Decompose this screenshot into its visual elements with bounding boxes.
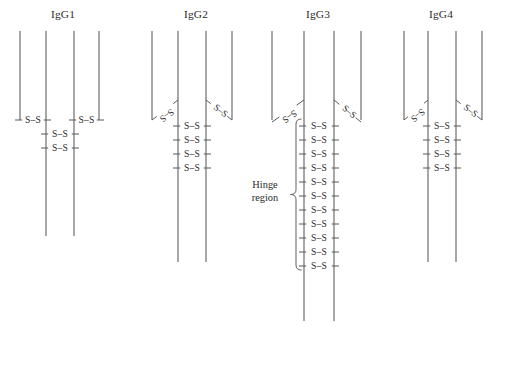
- igg3-hinge-bond-1: S–S: [299, 120, 339, 131]
- igg1-hinge-bond-2: S–S: [41, 142, 79, 153]
- igg3-hinge-label-line1: Hinge: [252, 179, 278, 190]
- igg1-hinge-bond-1-label: S–S: [52, 128, 68, 139]
- igg3-hinge-bond-1-label: S–S: [311, 120, 327, 131]
- igg2-light-heavy-left: S–S: [152, 100, 178, 124]
- igg2-light-heavy-right-segment-b: [227, 116, 232, 120]
- igg3-hinge-bond-7-label: S–S: [311, 204, 327, 215]
- isotype-group-igg1: S–SS–SS–SS–SIgG1: [15, 8, 104, 236]
- igg3-hinge-bond-3-label: S–S: [311, 148, 327, 159]
- igg4-light-heavy-right: S–S: [456, 100, 482, 120]
- igg3-hinge-bond-8: S–S: [299, 218, 339, 229]
- igg3-hinge-bond-11-label: S–S: [311, 260, 327, 271]
- igg2-light-heavy-left-label: S–S: [158, 107, 176, 124]
- igg-diagram-canvas: S–SS–SS–SS–SIgG1S–SS–SS–SS–SS–SS–SIgG2S–…: [0, 0, 505, 369]
- igg3-hinge-bond-4-label: S–S: [311, 162, 327, 173]
- igg3-hinge-bond-2-label: S–S: [311, 134, 327, 145]
- igg2-title: IgG2: [184, 8, 208, 20]
- igg3-light-heavy-left-segment-a: [297, 100, 304, 105]
- igg3-light-heavy-left-segment-b: [272, 117, 279, 122]
- igg3-hinge-bond-4: S–S: [299, 162, 339, 173]
- igg2-light-heavy-right-segment-a: [206, 100, 211, 104]
- igg3-light-heavy-right-segment-b: [356, 118, 361, 122]
- igg3-light-heavy-left: S–S: [272, 100, 304, 125]
- igg3-hinge-bond-10-label: S–S: [311, 246, 327, 257]
- igg1-light-heavy-right-label: S–S: [79, 114, 95, 125]
- igg2-hinge-bond-1: S–S: [173, 120, 211, 131]
- igg4-hinge-bond-3: S–S: [423, 148, 461, 159]
- igg3-hinge-bond-9-label: S–S: [311, 232, 327, 243]
- igg2-hinge-bond-2-label: S–S: [184, 134, 200, 145]
- igg4-light-heavy-left-segment-a: [424, 100, 428, 103]
- igg2-hinge-bond-3-label: S–S: [184, 148, 200, 159]
- isotype-group-igg4: S–SS–SS–SS–SS–SS–SIgG4: [404, 8, 482, 262]
- igg1-hinge-bond-1: S–S: [41, 128, 79, 139]
- igg2-light-heavy-left-segment-a: [173, 100, 178, 104]
- igg2-hinge-bond-4-label: S–S: [184, 162, 200, 173]
- igg2-hinge-bond-3: S–S: [173, 148, 211, 159]
- igg1-hinge-bond-2-label: S–S: [52, 142, 68, 153]
- igg3-hinge-bond-7: S–S: [299, 204, 339, 215]
- igg2-hinge-bond-4: S–S: [173, 162, 211, 173]
- igg-subclass-diagram: S–SS–SS–SS–SIgG1S–SS–SS–SS–SS–SS–SIgG2S–…: [0, 0, 505, 369]
- igg3-hinge-bond-11: S–S: [299, 260, 339, 271]
- igg4-hinge-bond-1-label: S–S: [434, 120, 450, 131]
- igg4-hinge-bond-3-label: S–S: [434, 148, 450, 159]
- igg3-hinge-bond-5-label: S–S: [311, 176, 327, 187]
- igg3-hinge-bond-6: S–S: [299, 190, 339, 201]
- igg2-light-heavy-left-segment-b: [152, 116, 157, 120]
- diagram-content: S–SS–SS–SS–SIgG1S–SS–SS–SS–SS–SS–SIgG2S–…: [15, 8, 482, 321]
- igg1-light-heavy-left-label: S–S: [25, 114, 41, 125]
- isotype-group-igg2: S–SS–SS–SS–SS–SS–SIgG2: [152, 8, 232, 262]
- igg1-title: IgG1: [51, 8, 75, 20]
- igg3-light-heavy-right: S–S: [334, 100, 361, 122]
- igg3-hinge-bond-10: S–S: [299, 246, 339, 257]
- igg3-hinge-bond-2: S–S: [299, 134, 339, 145]
- igg4-light-heavy-left-label: S–S: [409, 107, 427, 124]
- igg3-hinge-bond-5: S–S: [299, 176, 339, 187]
- igg3-hinge-bond-6-label: S–S: [311, 190, 327, 201]
- igg4-light-heavy-left-segment-b: [404, 117, 408, 120]
- igg4-light-heavy-left: S–S: [404, 100, 428, 124]
- igg4-hinge-bond-2: S–S: [423, 134, 461, 145]
- igg3-hinge-bond-9: S–S: [299, 232, 339, 243]
- igg3-hinge-brace: [291, 119, 302, 270]
- igg3-light-heavy-right-segment-a: [334, 100, 339, 104]
- igg4-hinge-bond-4: S–S: [423, 162, 461, 173]
- igg4-light-heavy-right-segment-b: [477, 116, 482, 120]
- igg3-hinge-bond-8-label: S–S: [311, 218, 327, 229]
- igg2-light-heavy-right: S–S: [206, 100, 232, 120]
- igg3-hinge-bond-3: S–S: [299, 148, 339, 159]
- igg4-hinge-bond-1: S–S: [423, 120, 461, 131]
- igg4-hinge-bond-4-label: S–S: [434, 162, 450, 173]
- igg3-hinge-label-line2: region: [252, 192, 279, 203]
- isotype-group-igg3: S–SS–SS–SS–SS–SS–SS–SS–SS–SS–SS–SS–SS–SH…: [252, 8, 361, 321]
- igg3-title: IgG3: [306, 8, 330, 20]
- igg2-hinge-bond-1-label: S–S: [184, 120, 200, 131]
- igg4-title: IgG4: [429, 8, 453, 20]
- igg4-hinge-bond-2-label: S–S: [434, 134, 450, 145]
- igg2-hinge-bond-2: S–S: [173, 134, 211, 145]
- igg4-light-heavy-right-segment-a: [456, 100, 461, 104]
